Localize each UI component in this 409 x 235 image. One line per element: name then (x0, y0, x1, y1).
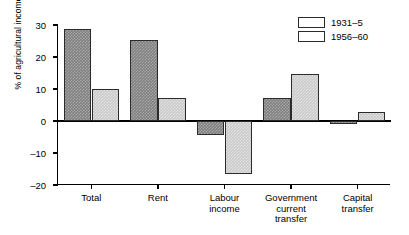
y-tick--10: –10 (53, 152, 58, 153)
y-tick-label-20: 20 (35, 51, 46, 62)
legend-swatch-icon-1956-60 (298, 31, 325, 42)
y-tick-20: 20 (53, 56, 58, 57)
bar-0-series-0 (64, 29, 92, 121)
y-tick-label--10: –10 (30, 147, 46, 158)
bar-3-series-0 (263, 98, 291, 121)
legend: 1931–5 1956–60 (298, 17, 368, 42)
y-axis-title: % of agricultural income (13, 0, 23, 123)
y-tick-0: 0 (53, 120, 58, 121)
bar-0-series-1 (92, 89, 120, 121)
y-tick-label-30: 30 (35, 20, 46, 31)
x-tick-1 (157, 184, 158, 189)
x-tick-4 (357, 184, 358, 189)
legend-label-series-0: 1931–5 (331, 17, 363, 28)
y-tick-30: 30 (53, 24, 58, 25)
y-tick--20: –20 (53, 184, 58, 185)
y-tick-label-0: 0 (41, 115, 46, 126)
x-tick-3 (290, 184, 291, 189)
x-axis-label-4: Capital transfer (319, 193, 397, 214)
legend-item-series-1: 1956–60 (298, 31, 368, 42)
x-tick-2 (224, 184, 225, 189)
bar-3-series-1 (291, 74, 319, 121)
bar-chart: % of agricultural income 3020100–10–20 T… (0, 0, 409, 235)
legend-swatch-icon-1931-5 (298, 17, 325, 28)
legend-label-series-1: 1956–60 (331, 31, 368, 42)
bar-1-series-0 (130, 40, 158, 121)
bar-4-series-0 (330, 121, 358, 124)
plot-area: 3020100–10–20 TotalRentLabour incomeGove… (57, 25, 390, 185)
y-tick-label-10: 10 (35, 83, 46, 94)
legend-item-series-0: 1931–5 (298, 17, 368, 28)
y-tick-10: 10 (53, 88, 58, 89)
bar-1-series-1 (158, 98, 186, 121)
x-tick-0 (91, 184, 92, 189)
bar-2-series-0 (197, 121, 225, 135)
y-tick-label--20: –20 (30, 179, 46, 190)
bar-4-series-1 (358, 112, 386, 121)
bar-2-series-1 (225, 121, 253, 174)
